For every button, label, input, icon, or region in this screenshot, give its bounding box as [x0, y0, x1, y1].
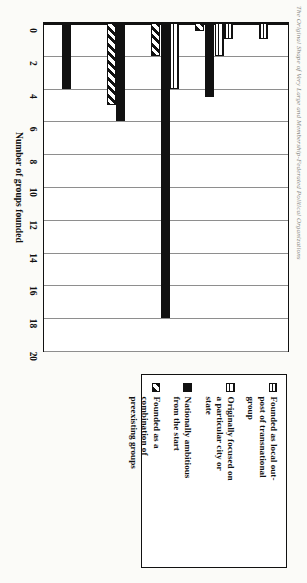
- legend-item-label-line: from the start: [171, 397, 182, 479]
- legend-item-label: Founded as acombination ofpreexisting gr…: [128, 397, 162, 469]
- chart-legend: Founded as local out-post of transnation…: [141, 374, 287, 568]
- horizontal-lines-swatch: [269, 383, 278, 392]
- legend-item-label: Founded as local out-post of transnation…: [245, 397, 279, 481]
- y-axis-tick-4: 4: [28, 77, 38, 99]
- legend-item-label-line: Founded as local out-: [268, 397, 279, 481]
- bar-group: [140, 23, 189, 352]
- category-label-line: National: [210, 0, 221, 20]
- y-axis-tick-14: 14: [28, 241, 38, 263]
- bar-group: [42, 23, 91, 352]
- legend-item: Originally focused ona particular city o…: [202, 383, 236, 560]
- legend-item-label: Originally focused ona particular city o…: [202, 397, 236, 481]
- bar-diagonal-hatch: [151, 23, 160, 56]
- legend-item: Founded as local out-post of transnation…: [245, 383, 279, 560]
- y-axis-tick-0: 0: [28, 11, 38, 33]
- bar-group: [91, 23, 140, 352]
- y-axis-tick-16: 16: [28, 273, 38, 295]
- category-label-line: Century: [106, 0, 117, 20]
- legend-item-label-line: preexisting groups: [128, 397, 139, 469]
- y-axis-tick-6: 6: [28, 109, 38, 131]
- legend-item-label-line: group: [245, 397, 256, 481]
- rotated-figure-container: The Original Shape of Very Large and Mem…: [0, 0, 307, 583]
- category-label-line: War II (after: [62, 0, 73, 20]
- bar-group: [239, 23, 288, 352]
- category-label-line: (1900–1940): [94, 0, 105, 20]
- bar-solid-black: [62, 23, 71, 89]
- legend-item-label-line: combination of: [139, 397, 150, 469]
- figure-caption: The Original Shape of Very Large and Mem…: [295, 6, 303, 576]
- plot-area: [43, 22, 289, 352]
- legend-item-label-line: state: [202, 397, 213, 481]
- category-label-line: Post–World: [73, 0, 84, 20]
- category-label-line: (1819–59): [198, 0, 209, 20]
- legend-item: Founded as acombination ofpreexisting gr…: [128, 383, 162, 560]
- category-label: Post–WorldWar II (after1945): [51, 0, 85, 20]
- y-axis-tick-10: 10: [28, 175, 38, 197]
- bar-solid-black: [116, 23, 125, 121]
- y-axis-title: Number of groups founded: [14, 132, 25, 243]
- bar-checkered-dots: [170, 23, 179, 89]
- bar-horizontal-lines: [259, 23, 268, 39]
- category-label-line: Post–Civil: [172, 0, 183, 20]
- checkered-dots-swatch: [226, 383, 235, 392]
- category-label: EarlyTwentiethCentury(1900–1940): [94, 0, 139, 20]
- figure-caption-text: The Original Shape of Very Large and Mem…: [295, 6, 303, 260]
- legend-item: Nationally ambitiousfrom the start: [171, 383, 194, 560]
- solid-black-swatch: [183, 383, 192, 392]
- plot-inner: [44, 23, 288, 352]
- category-label: Colonial(pre-1790): [253, 0, 275, 20]
- y-axis-tick-20: 20: [28, 339, 38, 361]
- bar-diagonal-hatch: [107, 23, 116, 105]
- category-label: EarlyNational(1819–59): [198, 0, 232, 20]
- bar-checkered-dots: [215, 23, 224, 56]
- legend-item-label-line: Nationally ambitious: [182, 397, 193, 479]
- bar-solid-black: [161, 23, 170, 318]
- legend-item-label-line: post of transnational: [256, 397, 267, 481]
- bar-solid-black: [205, 23, 214, 97]
- legend-item-label-line: Originally focused on: [225, 397, 236, 481]
- y-axis-tick-8: 8: [28, 142, 38, 164]
- category-label-line: (pre-1790): [253, 0, 264, 20]
- bar-group: [190, 23, 239, 352]
- diagonal-hatch-swatch: [152, 383, 161, 392]
- category-label-line: (1860–99): [149, 0, 160, 20]
- legend-item-label-line: a particular city or: [214, 397, 225, 481]
- category-label-line: Twentieth: [117, 0, 128, 20]
- bar-chart-figure: 02468101214161820Number of groups founde…: [11, 22, 289, 570]
- legend-item-label-line: Founded as a: [150, 397, 161, 469]
- y-axis-tick-12: 12: [28, 208, 38, 230]
- y-axis-tick-18: 18: [28, 306, 38, 328]
- category-label-line: War era: [160, 0, 171, 20]
- category-label-line: Early: [221, 0, 232, 20]
- category-label-line: Colonial: [264, 0, 275, 20]
- legend-item-label: Nationally ambitiousfrom the start: [171, 397, 194, 479]
- bar-diagonal-hatch: [195, 23, 204, 31]
- figure-page: The Original Shape of Very Large and Mem…: [0, 0, 307, 583]
- y-axis-tick-2: 2: [28, 44, 38, 66]
- category-label: Post–CivilWar era(1860–99): [149, 0, 183, 20]
- category-label-line: 1945): [51, 0, 62, 20]
- bar-horizontal-lines: [224, 23, 233, 39]
- category-label-line: Early: [128, 0, 139, 20]
